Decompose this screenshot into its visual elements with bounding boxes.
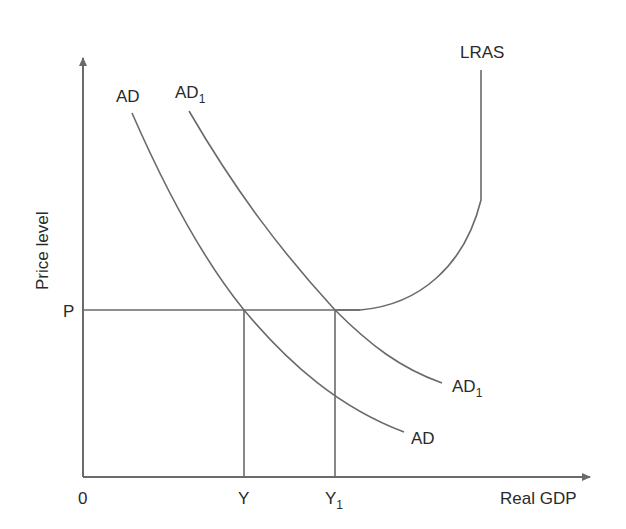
ad1-label-bottom: AD1 [452,377,483,400]
ad-label-bottom: AD [411,429,435,448]
lras-label: LRAS [460,43,504,62]
x-axis-label: Real GDP [500,489,577,508]
ad1-label-top: AD1 [175,83,206,106]
y-axis-label: Price level [33,212,52,290]
origin-label: 0 [78,489,87,508]
output-y-label: Y [238,489,249,508]
price-level-p-label: P [63,302,74,321]
lras-curve [335,70,481,310]
ad-lras-diagram: LRAS AD AD1 AD1 AD P Price level 0 Y Y1 … [0,0,626,529]
ad1-curve [189,111,442,383]
ad-curve [132,113,404,432]
ad-label-top: AD [116,87,140,106]
output-y1-label: Y1 [325,489,343,512]
